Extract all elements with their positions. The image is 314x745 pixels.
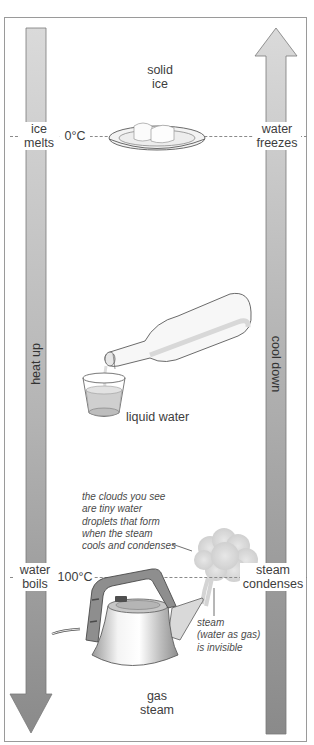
gas-steam-label: gas steam [130,689,184,717]
steam-annotation: steam (water as gas) is invisible [197,617,277,654]
